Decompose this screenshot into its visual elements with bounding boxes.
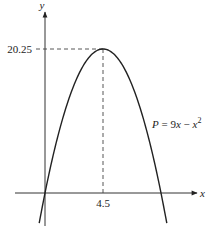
equation-label: P = 9x − x2 — [151, 116, 201, 130]
y-axis-label: y — [39, 0, 45, 11]
eq-text: − — [181, 118, 193, 130]
eq-text: = 9 — [159, 118, 177, 130]
parabola-chart: x y 4.5 20.25 P = 9x − x2 — [0, 0, 222, 240]
eq-exponent: 2 — [197, 116, 201, 125]
x-tick-label: 4.5 — [96, 197, 110, 209]
x-axis-label: x — [199, 187, 205, 199]
y-tick-label: 20.25 — [7, 43, 32, 55]
